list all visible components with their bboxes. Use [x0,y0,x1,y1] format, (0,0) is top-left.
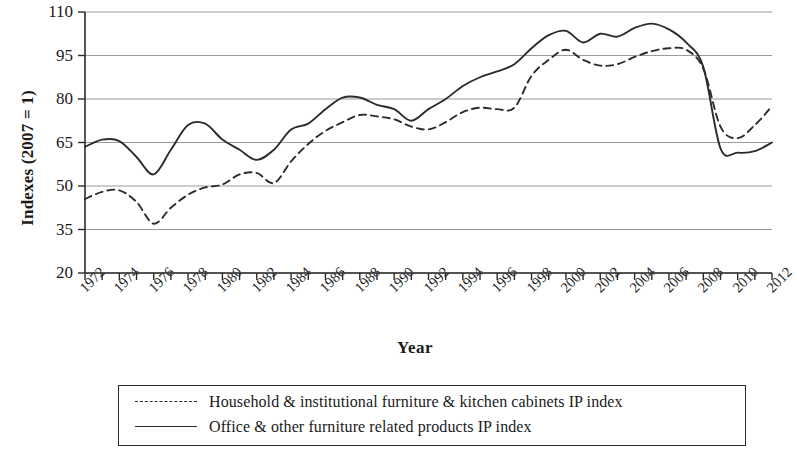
legend-box: Household & institutional furniture & ki… [118,385,746,446]
dashed-line-swatch-icon [135,396,197,408]
legend-entry-office: Office & other furniture related product… [135,414,532,439]
legend-label-office: Office & other furniture related product… [209,418,532,436]
series-line-household [85,48,772,224]
legend-label-household: Household & institutional furniture & ki… [209,393,623,411]
solid-line-swatch-icon [135,421,197,433]
legend-entry-household: Household & institutional furniture & ki… [135,389,623,414]
